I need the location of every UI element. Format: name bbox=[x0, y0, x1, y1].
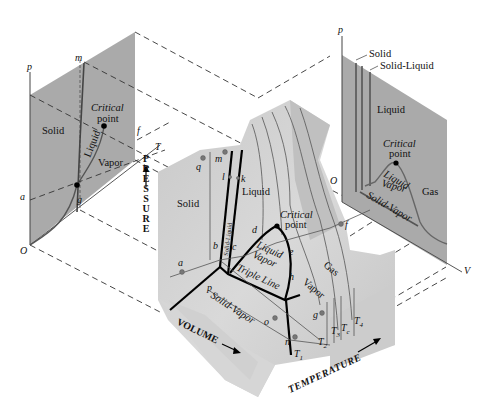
solid-region: Solid bbox=[177, 198, 200, 209]
point-o bbox=[273, 316, 278, 321]
point-m-left: m bbox=[75, 52, 82, 63]
critical-label-right-2: point bbox=[389, 148, 411, 159]
label-n: n bbox=[285, 336, 290, 347]
v-axis-label: V bbox=[464, 265, 472, 276]
t-axis-label: T bbox=[155, 141, 162, 152]
point-n bbox=[293, 335, 298, 340]
point-q bbox=[201, 156, 206, 161]
label-l: l bbox=[222, 171, 225, 182]
label-p: p bbox=[206, 282, 212, 293]
pvt-phase-diagram: p O T Solid Liquid Vapor Critical point … bbox=[0, 0, 487, 399]
point-k bbox=[236, 176, 239, 179]
label-q: q bbox=[196, 161, 201, 172]
p-axis-left-label: p bbox=[26, 61, 32, 72]
point-l bbox=[228, 175, 231, 178]
liquid-region-right: Liquid bbox=[377, 104, 406, 115]
point-a-left: a bbox=[20, 191, 25, 202]
liquid-region: Liquid bbox=[242, 186, 271, 197]
triple-point-left bbox=[74, 182, 80, 188]
point-g-left: g bbox=[77, 194, 82, 205]
critical-label-2: point bbox=[285, 219, 307, 230]
label-o: o bbox=[264, 316, 269, 327]
label-b: b bbox=[213, 240, 218, 251]
label-m: m bbox=[215, 153, 222, 164]
pressure-title: PRESSURE bbox=[141, 153, 152, 233]
point-a bbox=[180, 270, 185, 275]
solid-region-left: Solid bbox=[42, 125, 65, 136]
critical-label-left-1: Critical bbox=[91, 102, 124, 113]
label-a: a bbox=[178, 257, 183, 268]
label-h: h bbox=[289, 271, 294, 282]
pt-plane bbox=[30, 32, 135, 245]
right-pv-projection: p O V Solid Solid-Liquid Liquid Critical… bbox=[330, 24, 472, 276]
label-k: k bbox=[241, 173, 246, 184]
label-e: e bbox=[289, 246, 294, 257]
point-f bbox=[339, 222, 344, 227]
critical-label-left-2: point bbox=[97, 113, 119, 124]
point-g bbox=[320, 311, 325, 316]
critical-point-surface bbox=[274, 223, 279, 228]
label-g: g bbox=[313, 309, 318, 320]
solid-label-right: Solid bbox=[369, 48, 392, 59]
point-f-left: f bbox=[137, 125, 141, 136]
pv-plane bbox=[342, 55, 447, 265]
critical-point-left bbox=[101, 123, 107, 129]
gas-region-right: Gas bbox=[422, 186, 438, 197]
point-m bbox=[223, 150, 228, 155]
label-c: c bbox=[232, 241, 237, 252]
p-axis-right-label: p bbox=[337, 24, 343, 35]
critical-point-right bbox=[393, 160, 398, 165]
label-f: f bbox=[345, 219, 349, 230]
origin-right-label: O bbox=[330, 175, 337, 186]
origin-left-label: O bbox=[20, 245, 27, 256]
solid-liquid-label-right: Solid-Liquid bbox=[380, 60, 434, 71]
